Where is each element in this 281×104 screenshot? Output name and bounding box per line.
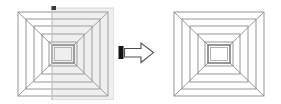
transformation-arrow: [118, 38, 156, 68]
right-diagonal-bottom-right: [230, 63, 264, 96]
right-diagonal-group: [174, 12, 264, 96]
selection-overlay-rect[interactable]: [52, 8, 114, 100]
right-diagonal-bottom-left: [174, 63, 208, 96]
left-figure: [14, 6, 114, 100]
right-ring-3: [198, 34, 240, 74]
right-figure: [170, 6, 270, 100]
right-center-square-inner: [211, 48, 228, 61]
arrow-tail-bar-icon: [119, 46, 124, 59]
right-diagonal-top-right: [230, 12, 264, 45]
arrow-head-icon: [125, 43, 154, 63]
right-center-group: [208, 45, 230, 63]
right-pyramid-svg: [170, 6, 270, 100]
arrow-svg: [118, 38, 156, 68]
diagram-canvas: [0, 0, 281, 104]
right-ring-1: [182, 19, 256, 89]
right-diagonal-top-left: [174, 12, 208, 45]
left-selection-overlay-svg[interactable]: [14, 6, 114, 100]
overlay-handle-mark-icon[interactable]: [52, 6, 57, 10]
